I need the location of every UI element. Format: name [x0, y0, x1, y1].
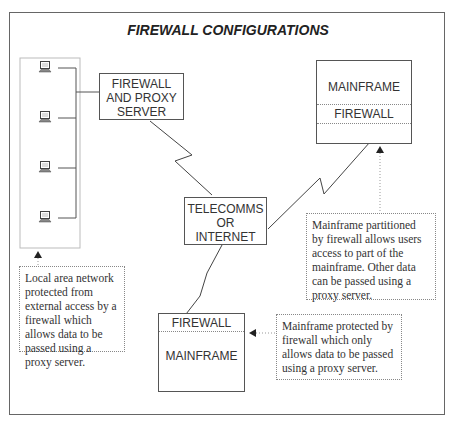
link-proxy-telecomms — [150, 121, 212, 195]
lan-note: Local area network protected from extern… — [19, 266, 125, 352]
proxy-server-line-3: SERVER — [100, 105, 183, 119]
partitioned-mainframe-note: Mainframe partitioned by firewall allows… — [306, 213, 436, 300]
protected-mainframe-note: Mainframe protected by firewall which on… — [276, 314, 402, 380]
proxy-server-line-1: FIREWALL — [100, 77, 183, 91]
telecomms-line-3: INTERNET — [185, 230, 266, 244]
firewall-layer-label: FIREWALL — [159, 314, 244, 332]
mainframe-label: MAINFRAME — [159, 332, 244, 380]
telecomms-line-1: TELECOMMS — [185, 202, 266, 216]
telecomms-node: TELECOMMS OR INTERNET — [184, 197, 267, 245]
laptop-icon — [38, 160, 52, 174]
laptop-icon — [38, 60, 52, 74]
mainframe-partitioned-node: MAINFRAME FIREWALL — [316, 60, 412, 144]
proxy-server-node: FIREWALL AND PROXY SERVER — [99, 73, 184, 120]
mainframe-label: MAINFRAME — [317, 61, 411, 105]
telecomms-line-2: OR — [185, 216, 266, 230]
laptop-icon — [38, 110, 52, 124]
protected-note-arrowhead — [249, 329, 256, 337]
firewall-partition-label: FIREWALL — [317, 105, 411, 124]
proxy-server-line-2: AND PROXY — [100, 91, 183, 105]
mainframe-protected-node: FIREWALL MAINFRAME — [158, 313, 245, 392]
lan-note-arrowhead — [34, 251, 42, 258]
laptop-icon — [38, 210, 52, 224]
link-telecomms-mainframe-bottom — [183, 245, 222, 318]
partitioned-note-arrowhead — [376, 146, 384, 153]
